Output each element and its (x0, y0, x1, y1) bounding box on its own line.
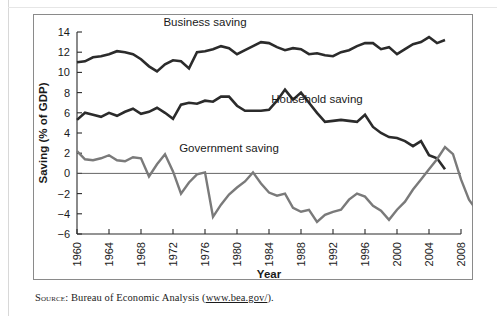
y-tick-label: −4 (57, 208, 70, 220)
series-label-household-saving: Household saving (271, 93, 362, 105)
y-tick-label: 8 (64, 87, 70, 99)
x-tick-label: 2000 (391, 242, 403, 266)
series-group (77, 37, 473, 222)
y-tick-label: 6 (64, 107, 70, 119)
y-tick-label: 14 (58, 26, 70, 38)
series-label-government-saving: Government saving (179, 142, 279, 154)
figure-container: −6−4−20246810121419601964196819721976198… (0, 0, 497, 316)
x-tick-label: 1964 (103, 242, 115, 266)
x-tick-label: 1960 (71, 242, 83, 266)
x-tick-label: 1992 (327, 242, 339, 266)
annotation-labels-group: Business savingHousehold savingGovernmen… (163, 16, 362, 154)
page-edge-left-rule (8, 0, 9, 316)
x-tick-label: 1976 (199, 242, 211, 266)
y-tick-label: 4 (64, 127, 70, 139)
x-axis-title: Year (257, 268, 282, 280)
saving-line-chart: −6−4−20246810121419601964196819721976198… (33, 14, 473, 280)
y-axis-title: Saving (% of GDP) (37, 82, 49, 183)
y-tick-label: 0 (64, 167, 70, 179)
x-tick-label: 1996 (359, 242, 371, 266)
x-tick-label: 2008 (455, 242, 467, 266)
source-url-link[interactable]: www.bea.gov/ (206, 292, 268, 303)
x-tick-label: 1968 (135, 242, 147, 266)
x-tick-label: 2004 (423, 242, 435, 266)
y-tick-label: 10 (58, 66, 70, 78)
y-tick-label: 2 (64, 147, 70, 159)
source-note: Source: Bureau of Economic Analysis (www… (35, 292, 274, 303)
y-tick-label: −6 (57, 228, 70, 240)
series-label-business-saving: Business saving (163, 16, 246, 28)
x-tick-label: 1972 (167, 242, 179, 266)
x-tick-label: 1980 (231, 242, 243, 266)
source-prefix: Source: (35, 292, 68, 303)
source-suffix: ). (267, 292, 273, 303)
y-tick-label: 12 (58, 46, 70, 58)
page-edge-top-rule (8, 7, 497, 8)
source-body: Bureau of Economic Analysis ( (71, 292, 206, 303)
y-tick-label: −2 (57, 188, 70, 200)
x-tick-label: 1984 (263, 242, 275, 266)
series-line-government-saving (77, 147, 473, 222)
series-line-business-saving (77, 37, 445, 71)
x-tick-label: 1988 (295, 242, 307, 266)
